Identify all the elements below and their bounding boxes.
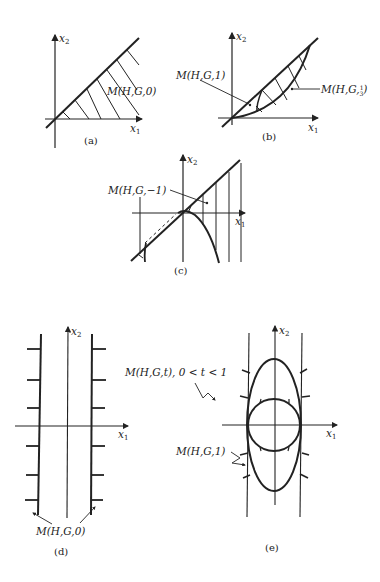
x2-label: x2	[187, 153, 197, 167]
parabola-left	[145, 243, 146, 262]
dot-m13	[291, 88, 293, 90]
panel-e: M(H,G,t), 0 < t < 1 M(H,G,1) x1 x2 (e)	[124, 324, 337, 553]
x2-label: x2	[279, 324, 289, 338]
parabola	[178, 211, 219, 263]
dot-m-neg1	[206, 202, 208, 204]
x1-label: x1	[308, 121, 318, 135]
diagonal-line	[222, 38, 318, 127]
right-ticks	[91, 349, 106, 500]
label-m-h-g-neg1: M(H,G,−1)	[107, 184, 166, 196]
left-boundary	[38, 334, 41, 515]
x2-label: x2	[236, 30, 246, 44]
caption-b: (b)	[262, 131, 276, 142]
panel-c: M(H,G,−1) x1 x2 (c)	[107, 153, 245, 276]
caption-a: (a)	[84, 135, 98, 146]
label-m-h-g-0: M(H,G,0)	[35, 525, 85, 537]
label-m-h-g-t: M(H,G,t), 0 < t < 1	[124, 366, 227, 378]
panel-d: M(H,G,0) x1 x2 (d)	[15, 325, 128, 557]
leader-right	[80, 507, 95, 523]
right-boundary	[91, 334, 92, 515]
label-m-h-g-0: M(H,G,0)	[106, 85, 156, 97]
x2-axis	[67, 327, 68, 518]
x1-label: x1	[118, 428, 128, 442]
caption-c: (c)	[174, 265, 188, 276]
caption-d: (d)	[54, 546, 68, 557]
leader-left	[33, 513, 52, 524]
squiggle-arrow-t	[195, 383, 215, 400]
label-m-h-g-third: M(H,G,13)	[320, 83, 367, 97]
hatching	[256, 56, 306, 112]
panel-a: M(H,G,0) x1 x2 (a)	[45, 32, 156, 148]
label-m-h-g-1: M(H,G,1)	[175, 69, 225, 81]
dot-m1	[249, 104, 251, 106]
dashed-segment	[145, 214, 176, 243]
x1-label: x1	[235, 215, 245, 229]
x2-label: x2	[59, 32, 69, 46]
leader-m1	[200, 80, 249, 104]
x2-label: x2	[71, 325, 81, 339]
x1-label: x1	[130, 122, 140, 136]
caption-e: (e)	[265, 542, 279, 553]
figure-canvas: M(H,G,0) x1 x2 (a) M(H,G,1) M(H,G,13) x1…	[0, 0, 380, 582]
boundary-line	[46, 38, 139, 128]
label-m-h-g-1: M(H,G,1)	[175, 445, 225, 457]
panel-b: M(H,G,1) M(H,G,13) x1 x2 (b)	[175, 30, 367, 142]
x1-label: x1	[326, 427, 336, 441]
